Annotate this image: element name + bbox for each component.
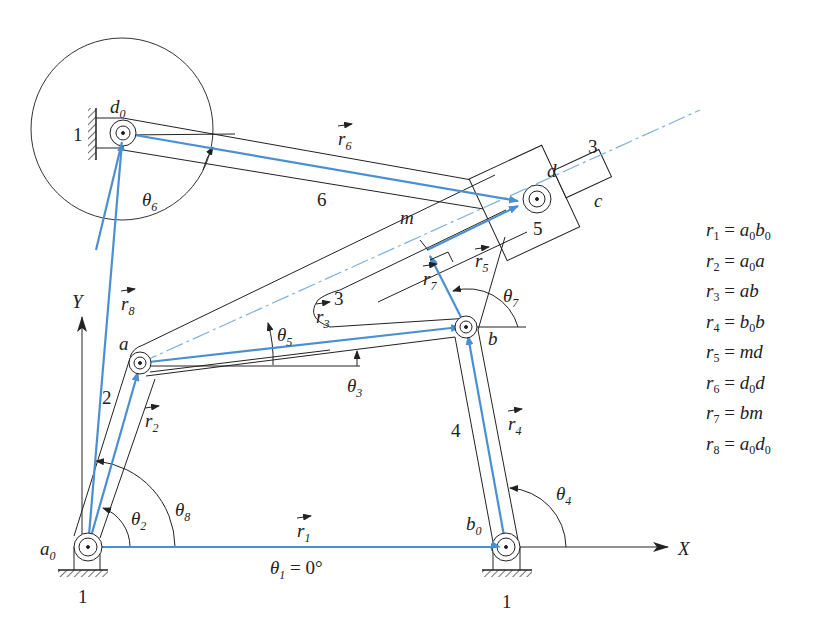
link-number-5: 5	[533, 218, 543, 239]
label-theta8: θ8	[175, 499, 190, 524]
link-number-2: 2	[102, 387, 112, 408]
label-theta3: θ3	[347, 375, 362, 400]
label-r2: r2	[145, 406, 159, 435]
label-r1: r1	[297, 516, 311, 545]
link-number-6: 6	[317, 189, 327, 210]
label-d: d	[547, 160, 557, 181]
link-number-ground-b0: 1	[502, 591, 512, 612]
label-b: b	[488, 328, 498, 349]
link-number-3-rod: 3	[588, 136, 598, 157]
svg-text:r8: r8	[121, 293, 134, 318]
link-2	[74, 358, 155, 538]
svg-text:r7: r7	[423, 268, 437, 293]
link-3-body	[130, 175, 527, 376]
legend-row: r3 = ab	[706, 279, 771, 310]
theta2-arc	[103, 508, 130, 547]
label-r6: r6	[338, 124, 352, 153]
link-3-centerline	[140, 110, 700, 363]
label-d0: d0	[110, 96, 126, 121]
label-theta5: θ5	[277, 324, 292, 349]
label-theta7: θ7	[503, 285, 519, 310]
label-axis-x: X	[677, 538, 691, 559]
legend-row: r1 = a0b0	[706, 218, 771, 249]
legend-row: r2 = a0a	[706, 249, 771, 280]
svg-text:r3: r3	[316, 306, 329, 331]
link-number-4: 4	[451, 420, 461, 441]
label-m: m	[400, 207, 414, 228]
svg-text:r4: r4	[508, 413, 521, 438]
link-number-ground-a0: 1	[78, 586, 88, 607]
legend-row: r8 = a0d0	[706, 432, 771, 463]
label-theta4: θ4	[556, 483, 571, 508]
legend-row: r5 = md	[706, 340, 771, 371]
label-c: c	[594, 190, 603, 211]
svg-text:r2: r2	[145, 410, 158, 435]
vector-definitions-legend: r1 = a0b0 r2 = a0a r3 = ab r4 = b0b r5 =…	[706, 218, 771, 462]
svg-text:r5: r5	[475, 250, 488, 275]
legend-row: r4 = b0b	[706, 310, 771, 341]
link-number-ground-d0: 1	[73, 124, 83, 145]
label-theta2: θ2	[131, 508, 146, 533]
label-a: a	[119, 333, 129, 354]
label-a0: a0	[40, 538, 56, 563]
svg-text:r6: r6	[338, 128, 351, 153]
label-r8: r8	[121, 289, 135, 318]
legend-row: r7 = bm	[706, 401, 771, 432]
theta5-arc	[268, 323, 273, 365]
legend-row: r6 = d0d	[706, 371, 771, 402]
mechanism-diagram: a0 b0 a b d0 d m c 1 1 1 2 3 3 4 5 6 r1 …	[0, 0, 828, 643]
pin-a	[129, 352, 151, 374]
label-axis-y: Y	[72, 291, 85, 312]
label-r4: r4	[508, 409, 522, 438]
pin-a0	[74, 533, 102, 561]
svg-text:r1: r1	[297, 520, 310, 545]
label-r3: r3	[316, 302, 330, 331]
label-theta6: θ6	[142, 189, 157, 214]
vector-r3	[140, 327, 460, 363]
pin-b	[455, 316, 477, 338]
pin-d0	[110, 120, 136, 146]
label-theta1: θ1 = 0°	[270, 557, 323, 582]
link-number-3-slot: 3	[334, 288, 344, 309]
label-b0: b0	[466, 513, 482, 538]
pin-d	[523, 185, 551, 213]
